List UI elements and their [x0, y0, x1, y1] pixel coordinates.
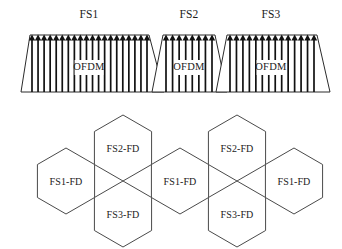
hex-label-cell-right-fs1: FS1-FD	[278, 176, 311, 187]
band-label-fs3: FS3	[261, 8, 280, 20]
figure-canvas: FS1OFDMFS2OFDMFS3OFDMFS1-FDFS2-FDFS3-FDF…	[0, 0, 342, 249]
hex-label-cell-lower-fs3-a: FS3-FD	[107, 209, 140, 220]
hex-label-cell-left-fs1: FS1-FD	[50, 176, 83, 187]
ofdm-label-fs2: OFDM	[173, 61, 205, 72]
band-label-fs2: FS2	[179, 8, 198, 20]
hex-label-cell-lower-fs3-b: FS3-FD	[221, 209, 254, 220]
hex-label-cell-upper-fs2-a: FS2-FD	[107, 143, 140, 154]
ofdm-label-fs3: OFDM	[255, 61, 287, 72]
ofdm-label-fs1: OFDM	[73, 61, 105, 72]
hex-label-cell-upper-fs2-b: FS2-FD	[221, 143, 254, 154]
diagram-svg: FS1OFDMFS2OFDMFS3OFDMFS1-FDFS2-FDFS3-FDF…	[0, 0, 342, 249]
band-label-fs1: FS1	[79, 8, 98, 20]
hex-label-cell-center-fs1: FS1-FD	[164, 176, 197, 187]
